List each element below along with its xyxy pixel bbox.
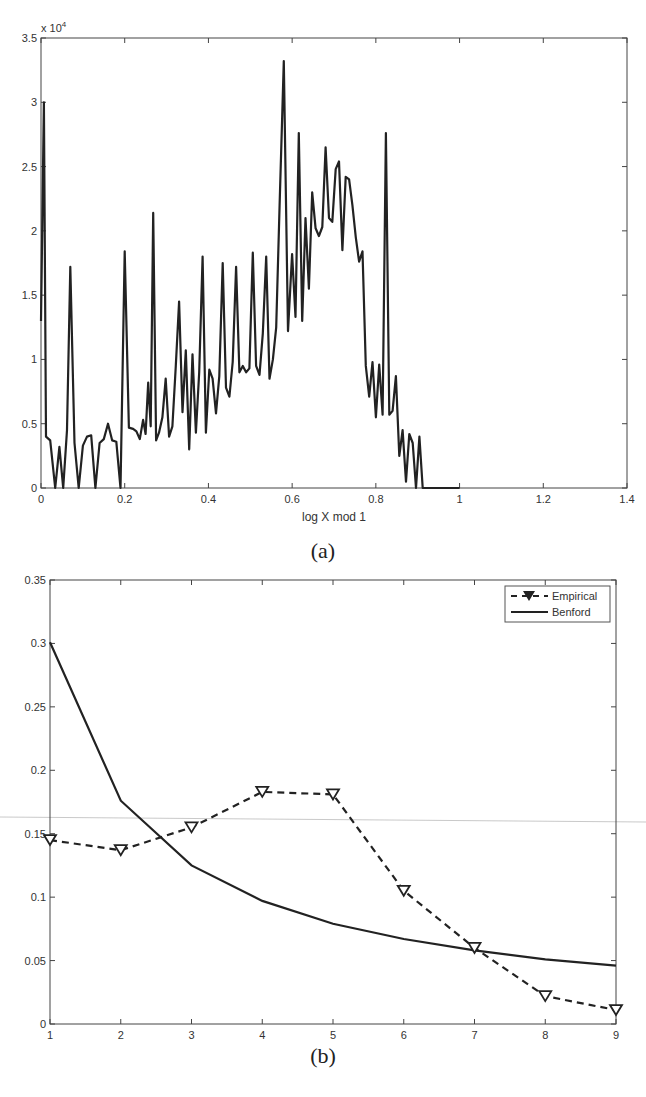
triangle-marker-icon <box>610 1005 622 1015</box>
x-tick-label: 1 <box>47 1029 53 1041</box>
x-tick-label: 7 <box>471 1029 477 1041</box>
y-tick-label: 0.3 <box>31 637 46 649</box>
triangle-marker-icon <box>186 822 198 832</box>
legend: Empirical Benford <box>505 586 610 622</box>
x-tick-label: 0.4 <box>201 493 216 505</box>
plot-a-x-axis-label: log X mod 1 <box>302 510 366 524</box>
y-tick-label: 0.5 <box>22 418 37 430</box>
y-tick-label: 0 <box>31 482 37 494</box>
y-tick-label: 0.25 <box>25 701 46 713</box>
x-tick-label: 3 <box>188 1029 194 1041</box>
y-tick-label: 0.05 <box>25 955 46 967</box>
y-tick-label: 0.2 <box>31 764 46 776</box>
plot-a-data-line <box>41 61 460 488</box>
plot-a-tick-labels: 00.20.40.60.811.21.400.511.522.533.5 <box>22 32 635 505</box>
x-tick-label: 1.2 <box>536 493 551 505</box>
scan-artifact-line <box>0 817 646 822</box>
y-tick-label: 3.5 <box>22 32 37 44</box>
x-tick-label: 2 <box>118 1029 124 1041</box>
legend-empirical-label: Empirical <box>552 590 597 602</box>
x-tick-label: 6 <box>401 1029 407 1041</box>
panel-b-caption: (b) <box>310 1043 336 1068</box>
empirical-dashed-line <box>50 792 616 1010</box>
x-tick-label: 0 <box>38 493 44 505</box>
plot-a-y-multiplier: x 104 <box>41 20 67 34</box>
x-tick-label: 0.6 <box>284 493 299 505</box>
y-tick-label: 0.1 <box>31 891 46 903</box>
x-tick-label: 0.8 <box>368 493 383 505</box>
x-tick-label: 5 <box>330 1029 336 1041</box>
y-tick-label: 0.35 <box>25 574 46 586</box>
x-tick-label: 8 <box>542 1029 548 1041</box>
legend-benford-label: Benford <box>552 606 591 618</box>
triangle-marker-icon <box>115 845 127 855</box>
figure: 00.20.40.60.811.21.400.511.522.533.5 x 1… <box>0 0 646 1097</box>
y-tick-label: 0 <box>40 1018 46 1030</box>
y-tick-label: 1 <box>31 353 37 365</box>
y-tick-label: 1.5 <box>22 289 37 301</box>
panel-a-caption: (a) <box>311 538 335 563</box>
y-tick-label: 2 <box>31 225 37 237</box>
y-tick-label: 2.5 <box>22 161 37 173</box>
benford-line <box>50 642 616 965</box>
y-tick-label: 0.15 <box>25 828 46 840</box>
panel-a-histogram-line-chart: 00.20.40.60.811.21.400.511.522.533.5 x 1… <box>22 20 635 563</box>
x-tick-label: 1 <box>457 493 463 505</box>
y-tick-label: 3 <box>31 96 37 108</box>
x-tick-label: 4 <box>259 1029 265 1041</box>
x-tick-label: 9 <box>613 1029 619 1041</box>
x-tick-label: 1.4 <box>619 493 634 505</box>
triangle-marker-icon <box>539 991 551 1001</box>
plot-b-tick-labels: 12345678900.050.10.150.20.250.30.35 <box>25 574 619 1041</box>
x-tick-label: 0.2 <box>117 493 132 505</box>
